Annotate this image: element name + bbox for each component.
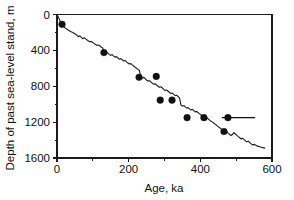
data-point-marker <box>59 21 66 28</box>
y-tick-label: 1600 <box>24 152 50 164</box>
y-axis-tick-labels: 040080012001600 <box>24 9 50 165</box>
x-tick-label: 200 <box>119 163 138 175</box>
data-point-marker <box>201 114 208 121</box>
y-axis-title: Depth of past sea-level stand, m <box>4 6 16 171</box>
data-point-marker <box>184 114 191 121</box>
data-point-markers <box>59 21 255 135</box>
data-point-marker <box>225 114 232 121</box>
data-point-marker <box>221 128 228 135</box>
data-point-marker <box>136 74 143 81</box>
data-point-marker <box>169 97 176 104</box>
x-tick-label: 600 <box>262 163 281 175</box>
sea-level-curve <box>57 15 265 149</box>
x-axis-title: Age, ka <box>145 182 185 194</box>
y-tick-label: 800 <box>31 80 50 92</box>
y-tick-label: 1200 <box>24 116 50 128</box>
chart-figure: 040080012001600 0200400600 Age, ka Depth… <box>0 0 294 200</box>
sea-level-depth-chart: 040080012001600 0200400600 Age, ka Depth… <box>0 0 294 200</box>
data-point-marker <box>153 73 160 80</box>
data-point-marker <box>101 49 108 56</box>
x-axis-ticks <box>57 158 272 162</box>
y-tick-label: 400 <box>31 44 50 56</box>
y-tick-label: 0 <box>44 9 50 21</box>
x-axis-tick-labels: 0200400600 <box>54 163 282 175</box>
data-point-marker <box>157 97 164 104</box>
x-tick-label: 400 <box>191 163 210 175</box>
x-tick-label: 0 <box>54 163 60 175</box>
plot-frame <box>57 15 272 159</box>
y-axis-ticks <box>53 15 57 159</box>
